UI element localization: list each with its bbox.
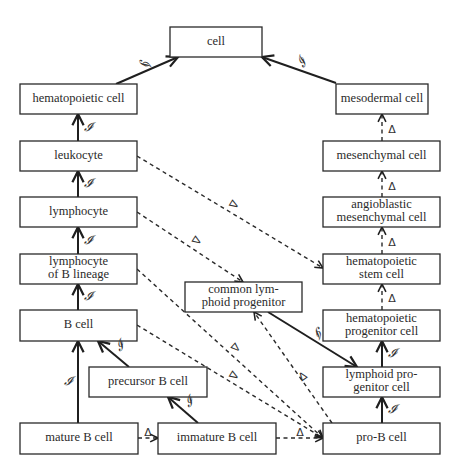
develops-from-label: Δ	[296, 369, 310, 384]
develops-from-label: Δ	[388, 292, 396, 305]
node-pro-b-cell: pro-B cell	[323, 423, 440, 454]
edge-leukocyte-to-hematopoietic-stem-cell	[137, 156, 323, 268]
develops-from-label: Δ	[226, 198, 241, 212]
node-label: stem cell	[359, 267, 404, 281]
nodes-layer: cellhematopoietic cellmesodermal cellleu…	[20, 27, 440, 454]
node-b-cell: B cell	[20, 310, 137, 341]
node-mature-b-cell: mature B cell	[20, 423, 138, 454]
is-a-label: 𝓘	[84, 289, 96, 303]
node-label: hematopoietic	[346, 254, 417, 268]
node-lymphocyte-of-b-lineage: lymphocyteof B lineage	[20, 254, 137, 284]
node-label: leukocyte	[54, 148, 103, 162]
node-label: cell	[207, 34, 226, 48]
is-a-label: 𝓘	[388, 402, 400, 416]
node-label: lymphocyte	[49, 204, 108, 218]
node-lymphoid-progenitor-cell: lymphoid pro-genitor cell	[323, 367, 440, 397]
node-label: precursor B cell	[108, 374, 188, 388]
node-common-lymphoid-progenitor: common lym-phoid progenitor	[185, 282, 302, 312]
node-label: genitor cell	[353, 380, 410, 394]
node-hematopoietic-stem-cell: hematopoieticstem cell	[323, 254, 440, 284]
node-label: of B lineage	[48, 267, 110, 281]
develops-from-label: Δ	[388, 180, 396, 193]
node-label: common lym-	[208, 282, 278, 296]
node-label: lymphocyte	[49, 254, 108, 268]
caption-area	[0, 462, 462, 474]
node-hematopoietic-progenitor-cell: hematopoieticprogenitor cell	[323, 310, 440, 341]
node-label: angioblastic	[351, 197, 412, 211]
node-label: immature B cell	[177, 430, 258, 444]
node-leukocyte: leukocyte	[20, 141, 137, 171]
node-angioblastic-mesenchymal-cell: angioblasticmesenchymal cell	[323, 197, 440, 227]
develops-from-label: Δ	[228, 340, 243, 355]
node-label: hematopoietic cell	[33, 91, 126, 105]
node-lymphocyte: lymphocyte	[20, 197, 137, 227]
node-mesodermal-cell: mesodermal cell	[336, 84, 428, 114]
node-immature-b-cell: immature B cell	[158, 423, 276, 454]
node-label: progenitor cell	[345, 324, 419, 338]
edge-lymphocyte-to-common-lymphoid-progenitor	[137, 212, 243, 282]
is-a-label: 𝓘	[388, 346, 400, 360]
node-label: mesenchymal cell	[337, 148, 427, 162]
node-hematopoietic-cell: hematopoietic cell	[20, 84, 137, 114]
develops-from-label: Δ	[144, 426, 152, 439]
node-label: pro-B cell	[356, 430, 407, 444]
is-a-label: 𝓘	[84, 120, 96, 134]
node-label: phoid progenitor	[202, 295, 287, 309]
is-a-label: 𝓘	[294, 53, 311, 69]
is-a-label: 𝓘	[64, 374, 76, 388]
is-a-label: 𝓘	[136, 56, 154, 73]
is-a-label: 𝓘	[84, 176, 96, 190]
develops-from-label: Δ	[296, 426, 304, 439]
node-precursor-b-cell: precursor B cell	[89, 367, 207, 397]
node-label: mesenchymal cell	[337, 210, 427, 224]
node-label: B cell	[64, 317, 94, 331]
node-cell: cell	[170, 27, 262, 57]
ontology-diagram: cellhematopoietic cellmesodermal cellleu…	[0, 0, 462, 474]
develops-from-label: Δ	[388, 236, 396, 249]
is-a-label: 𝓘	[84, 233, 96, 247]
develops-from-label: Δ	[388, 123, 396, 136]
node-label: mesodermal cell	[341, 91, 424, 105]
develops-from-label: Δ	[189, 234, 204, 248]
node-label: lymphoid pro-	[346, 367, 418, 381]
node-label: mature B cell	[45, 430, 113, 444]
node-label: hematopoietic	[346, 311, 417, 325]
node-mesenchymal-cell: mesenchymal cell	[323, 141, 440, 171]
